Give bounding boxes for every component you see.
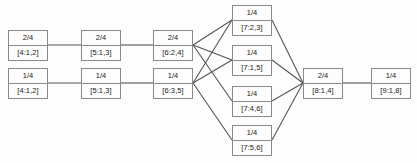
node-n11[interactable]: 2/4[8:1,4]: [303, 68, 343, 99]
node-n5[interactable]: 2/4[6:2,4]: [153, 30, 193, 61]
node-n3-label: [5:1,3]: [82, 46, 120, 60]
node-n4[interactable]: 1/4[5:1,3]: [81, 68, 121, 99]
node-n8[interactable]: 1/4[7:1,5]: [232, 45, 272, 76]
node-n7[interactable]: 1/4[7:2,3]: [232, 5, 272, 36]
node-n11-label: [8:1,4]: [304, 84, 342, 98]
edge-n10-n11: [272, 83, 303, 140]
edge-n5-n9: [193, 45, 232, 101]
edge-n9-n11: [272, 83, 303, 101]
node-n9-label: [7:4,6]: [233, 102, 271, 116]
node-n9[interactable]: 1/4[7:4,6]: [232, 86, 272, 117]
node-n8-score: 1/4: [233, 46, 271, 61]
node-n1-label: [4:1,2]: [9, 46, 47, 60]
node-n8-label: [7:1,5]: [233, 61, 271, 75]
edge-n8-n11: [272, 60, 303, 83]
edge-n6-n10: [193, 83, 232, 140]
node-n6-score: 1/4: [154, 69, 192, 84]
node-n10[interactable]: 1/4[7:5,6]: [232, 125, 272, 156]
node-n6[interactable]: 1/4[6:3,5]: [153, 68, 193, 99]
edge-layer: [0, 0, 417, 163]
node-n1-score: 2/4: [9, 31, 47, 46]
node-n5-score: 2/4: [154, 31, 192, 46]
node-n7-score: 1/4: [233, 6, 271, 21]
node-n2-label: [4:1,2]: [9, 84, 47, 98]
node-n3-score: 2/4: [82, 31, 120, 46]
node-n2-score: 1/4: [9, 69, 47, 84]
node-n12-score: 1/4: [372, 69, 410, 84]
edge-n7-n11: [272, 20, 303, 83]
node-n12-label: [9:1,8]: [372, 84, 410, 98]
node-n12[interactable]: 1/4[9:1,8]: [371, 68, 411, 99]
node-n4-score: 1/4: [82, 69, 120, 84]
node-n3[interactable]: 2/4[5:1,3]: [81, 30, 121, 61]
node-n1[interactable]: 2/4[4:1,2]: [8, 30, 48, 61]
node-n5-label: [6:2,4]: [154, 46, 192, 60]
node-n6-label: [6:3,5]: [154, 84, 192, 98]
node-n9-score: 1/4: [233, 87, 271, 102]
node-n10-score: 1/4: [233, 126, 271, 141]
node-n2[interactable]: 1/4[4:1,2]: [8, 68, 48, 99]
diagram-canvas: 2/4[4:1,2]1/4[4:1,2]2/4[5:1,3]1/4[5:1,3]…: [0, 0, 417, 163]
node-n4-label: [5:1,3]: [82, 84, 120, 98]
node-n11-score: 2/4: [304, 69, 342, 84]
node-n7-label: [7:2,3]: [233, 21, 271, 35]
edge-n6-n8: [193, 60, 232, 83]
edge-n6-n7: [193, 20, 232, 83]
node-n10-label: [7:5,6]: [233, 141, 271, 155]
edge-n5-n8: [193, 45, 232, 60]
edge-n5-n7: [193, 20, 232, 45]
